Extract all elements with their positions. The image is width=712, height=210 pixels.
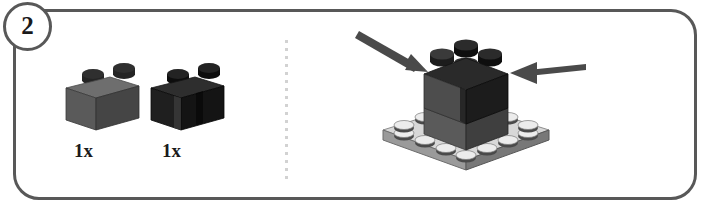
assembly-brick-seam — [460, 87, 466, 124]
part-quantity-label-1: 1x — [74, 140, 93, 162]
arrow-left — [355, 31, 428, 72]
part-brick-1x2-black-groove — [151, 63, 224, 130]
section-divider-dotted — [285, 40, 289, 182]
part-quantity-label-2: 1x — [162, 140, 181, 162]
arrow-right — [510, 62, 586, 84]
instruction-step-sheet: 2 — [0, 0, 712, 210]
part-brick-1x2-dark-gray — [66, 63, 139, 130]
assembly-model — [355, 31, 586, 170]
parts-and-assembly-artwork — [0, 0, 712, 210]
brick-groove-shadow — [196, 91, 203, 125]
brick-groove — [174, 96, 181, 130]
